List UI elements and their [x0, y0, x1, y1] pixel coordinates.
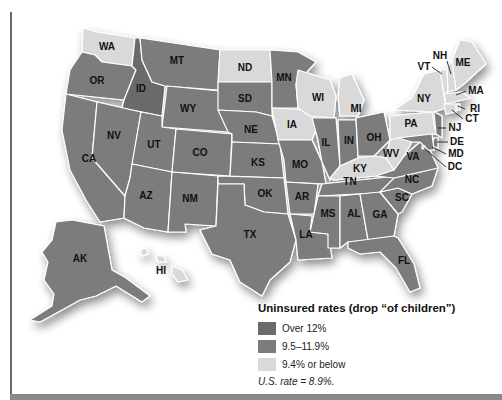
label-sc: SC: [395, 192, 409, 203]
legend-item-9-5-to-11-9: 9.5–11.9%: [258, 338, 498, 354]
state-ny[interactable]: [394, 70, 446, 112]
label-nc: NC: [405, 174, 419, 185]
label-ms: MS: [321, 208, 336, 219]
label-me: ME: [456, 57, 471, 68]
label-md: MD: [448, 148, 464, 159]
legend-label: Over 12%: [282, 323, 326, 334]
label-mo: MO: [292, 159, 308, 170]
label-mn: MN: [276, 72, 292, 83]
legend-swatch: [258, 322, 276, 335]
label-wy: WY: [180, 103, 196, 114]
label-ga: GA: [373, 209, 388, 220]
label-mt: MT: [170, 55, 184, 66]
label-ut: UT: [147, 139, 160, 150]
legend-title: Uninsured rates (drop “of children”): [258, 302, 498, 314]
label-ma: MA: [468, 85, 484, 96]
label-hi: HI: [156, 265, 166, 276]
label-ok: OK: [258, 188, 274, 199]
legend-item-9-4-or-below: 9.4% or below: [258, 356, 498, 372]
label-ak: AK: [73, 253, 88, 264]
label-in: IN: [344, 135, 354, 146]
label-tn: TN: [343, 176, 356, 187]
label-ca: CA: [82, 153, 96, 164]
label-ny: NY: [417, 93, 431, 104]
label-wv: WV: [383, 148, 399, 159]
legend-item-over-12: Over 12%: [258, 320, 498, 336]
label-ks: KS: [251, 157, 265, 168]
label-nm: NM: [182, 193, 198, 204]
label-pa: PA: [404, 118, 417, 129]
state-ma[interactable]: [444, 92, 470, 104]
label-al: AL: [347, 208, 360, 219]
label-de: DE: [450, 136, 464, 147]
label-il: IL: [322, 137, 331, 148]
state-ak[interactable]: [30, 220, 150, 322]
legend-label: 9.4% or below: [282, 359, 345, 370]
legend-swatch: [258, 340, 276, 353]
legend: Uninsured rates (drop “of children”) Ove…: [258, 302, 498, 387]
label-az: AZ: [139, 190, 152, 201]
label-oh: OH: [367, 132, 382, 143]
label-nj: NJ: [449, 122, 462, 133]
label-vt: VT: [418, 61, 431, 72]
label-ct: CT: [465, 113, 478, 124]
label-id: ID: [136, 83, 146, 94]
label-dc: DC: [448, 161, 462, 172]
state-ct[interactable]: [444, 104, 456, 114]
label-la: LA: [299, 229, 312, 240]
label-va: VA: [406, 151, 419, 162]
label-ar: AR: [295, 191, 310, 202]
label-fl: FL: [398, 255, 410, 266]
label-wa: WA: [99, 41, 115, 52]
label-nd: ND: [238, 62, 252, 73]
label-tx: TX: [244, 229, 257, 240]
legend-swatch: [258, 358, 276, 371]
label-nv: NV: [107, 130, 121, 141]
legend-label: 9.5–11.9%: [282, 341, 329, 352]
label-ia: IA: [287, 119, 297, 130]
label-wi: WI: [312, 92, 324, 103]
label-nh: NH: [433, 50, 447, 61]
label-ky: KY: [353, 163, 367, 174]
label-or: OR: [90, 75, 106, 86]
label-sd: SD: [238, 93, 252, 104]
label-ne: NE: [244, 124, 258, 135]
us-rate-note: U.S. rate = 8.9%.: [258, 376, 498, 387]
label-mi: MI: [350, 103, 361, 114]
label-co: CO: [193, 147, 208, 158]
